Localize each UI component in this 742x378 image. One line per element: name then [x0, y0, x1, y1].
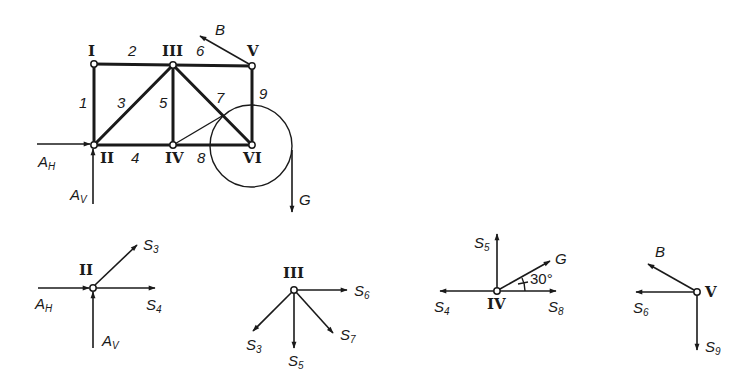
fbd-node-ii: II AH AV S3 S4 — [34, 236, 162, 351]
force-b — [200, 36, 249, 64]
fbd-ii-label: II — [79, 261, 93, 279]
member-label-1: 1 — [79, 94, 87, 111]
fbd-iv-label-s8: S8 — [548, 298, 564, 317]
fbd-node-v: V B S6 S9 — [633, 243, 721, 357]
fbd-v-label-s6: S6 — [633, 299, 649, 318]
fbd-iii-force-s3 — [253, 292, 292, 331]
fbd-iv-label-s5: S5 — [474, 234, 490, 253]
fbd-iv-label-g: G — [555, 250, 567, 267]
member-label-3: 3 — [117, 94, 126, 111]
fbd-iv-angle-tick — [518, 282, 528, 284]
member-label-5: 5 — [159, 94, 168, 111]
fbd-iii-label: III — [283, 264, 304, 282]
fbd-iv-node — [494, 288, 500, 294]
fbd-ii-label-av: AV — [101, 332, 120, 351]
node-v — [249, 63, 255, 69]
fbd-ii-label-ah: AH — [34, 295, 53, 314]
node-label-iv: IV — [165, 149, 184, 167]
member-label-9: 9 — [259, 85, 268, 102]
fbd-iii-force-s7 — [296, 292, 333, 333]
member-label-4: 4 — [131, 149, 139, 166]
fbd-node-iv: IV 30° S5 S4 S8 G — [434, 234, 567, 317]
fbd-v-label-b: B — [655, 243, 665, 260]
label-g: G — [299, 191, 311, 208]
label-av: AV — [69, 186, 88, 205]
fbd-ii-label-s3: S3 — [143, 236, 159, 255]
member-label-2: 2 — [127, 42, 137, 59]
fbd-v-label: V — [704, 283, 717, 301]
truss-diagram: I II III IV V VI 1 2 3 4 5 6 7 8 9 AH AV… — [0, 0, 742, 378]
fbd-iii-label-s7: S7 — [340, 326, 356, 345]
node-label-i: I — [88, 42, 95, 60]
fbd-iii-label-s6: S6 — [354, 282, 370, 301]
node-label-iii: III — [162, 42, 183, 60]
member-6 — [173, 65, 252, 66]
node-i — [91, 61, 97, 67]
node-ii — [91, 142, 97, 148]
fbd-v-label-s9: S9 — [705, 338, 721, 357]
fbd-v-node — [694, 289, 700, 295]
fbd-node-iii: III S6 S3 S5 S7 — [246, 264, 370, 371]
node-label-v: V — [246, 42, 259, 60]
label-ah: AH — [37, 153, 56, 172]
node-iv — [170, 142, 176, 148]
truss: I II III IV V VI 1 2 3 4 5 6 7 8 9 AH AV… — [37, 21, 311, 212]
fbd-iii-label-s3: S3 — [246, 336, 262, 355]
member-label-6: 6 — [196, 42, 205, 59]
fbd-ii-force-s3 — [95, 245, 137, 285]
label-b: B — [215, 21, 225, 38]
fbd-iii-label-s5: S5 — [288, 352, 304, 371]
fbd-ii-node — [90, 285, 96, 291]
node-iii — [170, 62, 176, 68]
node-vi — [249, 142, 255, 148]
member-label-8: 8 — [197, 149, 206, 166]
member-label-7: 7 — [216, 89, 225, 106]
fbd-iv-label-s4: S4 — [434, 298, 450, 317]
fbd-iv-angle: 30° — [530, 270, 553, 287]
fbd-iv-angle-arc — [522, 278, 525, 291]
rope — [173, 116, 222, 145]
node-label-ii: II — [100, 149, 114, 167]
fbd-iv-label: IV — [487, 295, 506, 313]
fbd-v-force-b — [648, 264, 694, 290]
node-label-vi: VI — [242, 149, 262, 167]
fbd-ii-label-s4: S4 — [146, 296, 162, 315]
member-2 — [94, 64, 173, 65]
fbd-iii-node — [291, 287, 297, 293]
